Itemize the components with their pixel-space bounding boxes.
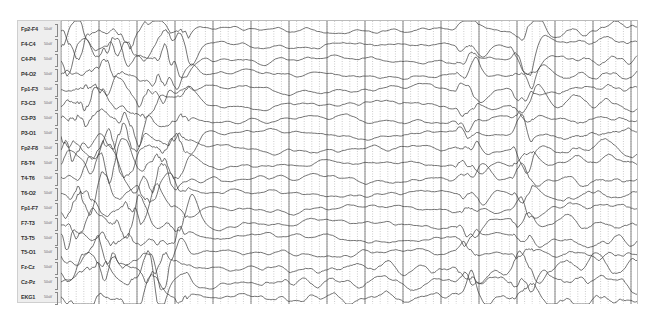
scale-bar-icon <box>55 188 58 201</box>
channel-row[interactable]: F4-C450uV <box>18 37 62 52</box>
scale-bar-icon <box>55 24 58 37</box>
eeg-waveforms <box>61 21 638 304</box>
channel-scale-label: 50uV <box>44 57 52 61</box>
channel-name: EKG1 <box>21 294 35 300</box>
channel-row[interactable]: Fp1-F350uV <box>18 82 62 97</box>
channel-name: Fp2-F8 <box>21 145 38 151</box>
channel-row[interactable]: P4-O250uV <box>18 67 62 82</box>
channel-name: Fp2-F4 <box>21 26 38 32</box>
eeg-trace <box>61 57 637 89</box>
channel-row[interactable]: P3-O150uV <box>18 126 62 141</box>
channel-name: Fp1-F7 <box>21 205 38 211</box>
channel-name: T5-O1 <box>21 249 36 255</box>
scale-bar-icon <box>55 98 58 111</box>
channel-scale-label: 50uV <box>44 161 52 165</box>
channel-name: Fz-Cz <box>21 264 35 270</box>
channel-name: T4-T6 <box>21 175 35 181</box>
eeg-trace <box>61 84 637 118</box>
channel-row[interactable]: T3-T550uV <box>18 231 62 246</box>
eeg-trace <box>61 21 637 60</box>
channel-row[interactable]: Cz-Pz50uV <box>18 275 62 290</box>
scale-bar-icon <box>55 69 58 82</box>
scale-bar-icon <box>55 143 58 156</box>
channel-scale-label: 50uV <box>44 280 52 284</box>
eeg-trace <box>61 184 637 225</box>
channel-label-panel: Fp2-F450uVF4-C450uVC4-P450uVP4-O250uVFp1… <box>17 20 61 303</box>
scale-bar-icon <box>55 218 58 231</box>
eeg-trace <box>61 251 637 284</box>
channel-scale-label: 50uV <box>44 101 52 105</box>
scale-bar-icon <box>55 247 58 260</box>
channel-name: P3-O1 <box>21 130 36 136</box>
channel-row[interactable]: Fp1-F750uV <box>18 201 62 216</box>
scale-bar-icon <box>55 128 58 141</box>
scale-bar-icon <box>55 39 58 52</box>
channel-scale-label: 50uV <box>44 295 52 299</box>
eeg-trace <box>61 172 637 216</box>
eeg-trace <box>61 236 637 304</box>
scale-bar-icon <box>55 233 58 246</box>
channel-name: C4-P4 <box>21 56 36 62</box>
scale-bar-icon <box>55 84 58 97</box>
channel-row[interactable]: T5-O150uV <box>18 245 62 260</box>
channel-scale-label: 50uV <box>44 206 52 210</box>
scale-bar-icon <box>55 113 58 126</box>
channel-name: T3-T5 <box>21 235 35 241</box>
channel-scale-label: 50uV <box>44 27 52 31</box>
channel-row[interactable]: Fz-Cz50uV <box>18 260 62 275</box>
channel-scale-label: 50uV <box>44 236 52 240</box>
scale-bar-icon <box>55 262 58 275</box>
scale-bar-icon <box>55 277 58 290</box>
eeg-trace <box>61 227 637 250</box>
eeg-trace <box>61 21 637 76</box>
channel-scale-label: 50uV <box>44 131 52 135</box>
channel-row[interactable]: Fp2-F850uV <box>18 141 62 156</box>
channel-row[interactable]: T4-T650uV <box>18 171 62 186</box>
channel-name: F8-T4 <box>21 160 35 166</box>
channel-name: F4-C4 <box>21 41 35 47</box>
channel-name: P4-O2 <box>21 71 36 77</box>
eeg-trace <box>61 38 637 78</box>
channel-row[interactable]: Fp2-F450uV <box>18 22 62 37</box>
channel-row[interactable]: F3-C350uV <box>18 96 62 111</box>
channel-scale-label: 50uV <box>44 116 52 120</box>
channel-row[interactable]: C4-P450uV <box>18 52 62 67</box>
channel-scale-label: 50uV <box>44 221 52 225</box>
channel-row[interactable]: F8-T450uV <box>18 156 62 171</box>
channel-row[interactable]: T6-O250uV <box>18 186 62 201</box>
channel-scale-label: 50uV <box>44 265 52 269</box>
scale-bar-icon <box>55 292 58 305</box>
channel-row[interactable]: EKG150uV <box>18 290 62 305</box>
channel-scale-label: 50uV <box>44 176 52 180</box>
channel-scale-label: 50uV <box>44 72 52 76</box>
scale-bar-icon <box>55 54 58 67</box>
channel-scale-label: 50uV <box>44 146 52 150</box>
channel-row[interactable]: F7-T350uV <box>18 216 62 231</box>
scale-bar-icon <box>55 158 58 171</box>
channel-name: Cz-Pz <box>21 279 35 285</box>
channel-name: T6-O2 <box>21 190 36 196</box>
channel-name: C3-P3 <box>21 115 36 121</box>
eeg-trace <box>61 195 637 240</box>
eeg-trace <box>61 114 637 161</box>
eeg-trace <box>61 270 637 304</box>
channel-scale-label: 50uV <box>44 42 52 46</box>
channel-name: F3-C3 <box>21 100 35 106</box>
channel-row[interactable]: C3-P350uV <box>18 111 62 126</box>
scale-bar-icon <box>55 173 58 186</box>
channel-name: Fp1-F3 <box>21 86 38 92</box>
channel-scale-label: 50uV <box>44 191 52 195</box>
eeg-trace <box>61 109 637 147</box>
channel-scale-label: 50uV <box>44 87 52 91</box>
channel-name: F7-T3 <box>21 220 35 226</box>
scale-bar-icon <box>55 203 58 216</box>
channel-scale-label: 50uV <box>44 250 52 254</box>
eeg-trace-area[interactable] <box>61 20 638 303</box>
eeg-viewer: Fp2-F450uVF4-C450uVC4-P450uVP4-O250uVFp1… <box>17 20 638 303</box>
